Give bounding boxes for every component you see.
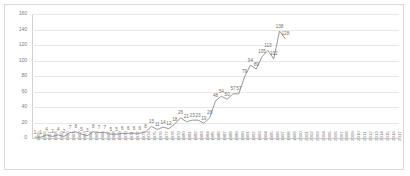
data-label: 21 — [184, 116, 189, 121]
data-label: 8 — [92, 126, 95, 131]
x-tick-label: 1999 — [293, 131, 297, 141]
data-label: 57 — [236, 88, 241, 93]
x-tick-label: 1971 — [130, 131, 134, 141]
x-tick-label: 1983 — [200, 131, 204, 141]
y-tick-label: 140 — [3, 27, 27, 32]
x-tick-label: 1988 — [229, 131, 233, 141]
data-label: 94 — [248, 59, 253, 64]
x-tick-label: 2015 — [386, 131, 390, 141]
data-label: 102 — [270, 53, 278, 58]
chart-container: 1142427853877556666815111412182621232319… — [4, 4, 404, 170]
data-label: 12 — [166, 123, 171, 128]
data-label: 54 — [219, 90, 224, 95]
y-tick-label: 100 — [3, 58, 27, 63]
data-label: 11 — [155, 123, 160, 128]
x-tick-label: 1975 — [153, 131, 157, 141]
data-label: 113 — [264, 44, 271, 49]
data-label: 48 — [213, 95, 218, 100]
y-tick-label: 60 — [3, 89, 27, 94]
x-tick-label: 2011 — [363, 132, 367, 141]
data-label: 15 — [149, 120, 154, 125]
x-tick-label: 2005 — [328, 131, 332, 141]
x-tick-label: 1965 — [95, 131, 99, 141]
x-tick-label: 1998 — [287, 131, 291, 141]
y-tick-label: 40 — [3, 104, 27, 109]
data-label: 8 — [74, 126, 77, 131]
data-label: 138 — [276, 25, 284, 30]
x-tick-label: 2017 — [398, 131, 402, 141]
data-label: 18 — [172, 118, 177, 123]
data-label: 14 — [161, 121, 166, 126]
data-label: 79 — [242, 71, 247, 76]
x-tick-label: 2016 — [392, 131, 396, 141]
data-label: 8 — [144, 126, 147, 131]
data-label: 89 — [254, 63, 259, 68]
data-label: 128 — [282, 33, 290, 38]
data-label: 23 — [195, 114, 200, 119]
x-tick-label: 1994 — [264, 131, 268, 141]
plot-area: 1142427853877556666815111412182621232319… — [32, 14, 399, 138]
x-tick-label: 1982 — [194, 131, 198, 141]
x-tick-label: 1992 — [252, 131, 256, 141]
x-tick-label: 1977 — [165, 131, 169, 141]
x-tick-label: 2000 — [299, 131, 303, 141]
y-tick-label: 80 — [3, 73, 27, 78]
x-tick-label: 2010 — [357, 131, 361, 141]
x-tick-label: 1961 — [72, 131, 76, 141]
x-tick-label: 2006 — [334, 131, 338, 141]
x-tick-label: 1993 — [258, 131, 262, 141]
x-tick-label: 1976 — [159, 131, 163, 141]
y-tick-label: 160 — [3, 11, 27, 16]
data-label: 50 — [225, 93, 230, 98]
data-label: 105 — [258, 51, 266, 56]
x-tick-label: 1966 — [101, 131, 105, 141]
x-tick-label: 1970 — [124, 131, 128, 141]
y-tick-label: 0 — [3, 135, 27, 140]
x-tick-label: 2004 — [322, 131, 326, 141]
x-tick-label: 1972 — [136, 131, 140, 141]
line-series — [32, 14, 399, 138]
x-tick-label: 1978 — [171, 131, 175, 141]
x-tick-label: 2012 — [369, 131, 373, 141]
x-tick-label: 1964 — [89, 131, 93, 141]
x-tick-label: 1987 — [223, 131, 227, 141]
data-label: 23 — [190, 114, 195, 119]
x-tick-label: 1955 — [37, 131, 41, 141]
y-tick-label: 20 — [3, 120, 27, 125]
y-tick-label: 120 — [3, 42, 27, 47]
x-tick-label: 1959 — [60, 131, 64, 141]
data-label: 57 — [230, 88, 235, 93]
x-tick-label: 1995 — [270, 131, 274, 141]
x-tick-label: 1989 — [235, 131, 239, 141]
data-label: 19 — [201, 117, 206, 122]
x-tick-label: 1960 — [66, 131, 70, 141]
x-tick-label: 2009 — [351, 131, 355, 141]
chart-plot-wrapper: 1142427853877556666815111412182621232319… — [5, 5, 405, 171]
x-tick-label: 1981 — [188, 131, 192, 141]
data-label: 26 — [178, 112, 183, 117]
data-label: 26 — [207, 112, 212, 117]
x-tick-label: 1958 — [54, 131, 58, 141]
